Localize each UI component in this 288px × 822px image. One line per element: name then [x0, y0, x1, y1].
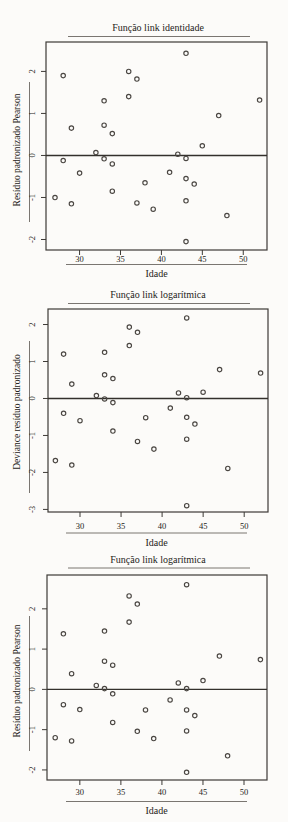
- data-point: [111, 720, 115, 724]
- data-point: [127, 343, 131, 347]
- data-point: [184, 729, 188, 733]
- data-point: [102, 123, 106, 127]
- data-point: [168, 406, 172, 410]
- data-point: [78, 707, 82, 711]
- x-tick-label: 35: [116, 254, 125, 264]
- scatter-plot-svg-3: Função link logarítmicaResíduo padroniza…: [0, 551, 288, 822]
- data-point: [61, 703, 65, 707]
- scatter-panel-log-pearson: Função link logarítmicaResíduo padroniza…: [0, 551, 288, 822]
- data-point: [135, 729, 139, 733]
- y-tick-label: -2: [28, 469, 38, 476]
- y-tick-label: 1: [28, 647, 38, 651]
- y-tick-label: -1: [28, 194, 38, 201]
- x-tick-label: 30: [76, 521, 85, 531]
- data-point: [168, 698, 172, 702]
- plot-border: [46, 42, 267, 250]
- data-point: [200, 144, 204, 148]
- data-point: [94, 393, 98, 397]
- data-point: [176, 681, 180, 685]
- data-point: [184, 51, 188, 55]
- chart-title: Função link identidade: [112, 22, 204, 33]
- data-point: [201, 390, 205, 394]
- x-tick-label: 50: [240, 787, 249, 797]
- data-point: [102, 659, 106, 663]
- data-point: [193, 713, 197, 717]
- scatter-plot-svg-1: Função link identidadeResíduo padronizad…: [0, 0, 288, 280]
- data-point: [193, 422, 197, 426]
- chart-title: Função link logarítmica: [110, 289, 206, 300]
- data-point: [135, 602, 139, 606]
- data-point: [102, 350, 106, 354]
- x-tick-label: 45: [198, 254, 207, 264]
- data-point: [258, 657, 262, 661]
- x-axis-label: Idade: [145, 537, 168, 548]
- data-point: [185, 396, 189, 400]
- y-tick-label: 2: [28, 607, 38, 611]
- data-point: [94, 150, 98, 154]
- scatter-plot-svg-2: Função link logarítmicaDeviance resíduo …: [0, 280, 288, 551]
- data-point: [110, 131, 114, 135]
- y-tick-label: -1: [28, 432, 38, 439]
- data-point: [61, 632, 65, 636]
- x-tick-label: 30: [75, 254, 84, 264]
- data-point: [225, 754, 229, 758]
- data-point: [53, 736, 57, 740]
- data-point: [225, 213, 229, 217]
- data-point: [152, 447, 156, 451]
- data-point: [111, 376, 115, 380]
- y-tick-label: 2: [28, 69, 38, 73]
- data-point: [61, 73, 65, 77]
- data-point: [53, 458, 57, 462]
- data-point: [102, 686, 106, 690]
- data-point: [69, 126, 73, 130]
- data-point: [127, 594, 131, 598]
- data-point: [127, 325, 131, 329]
- data-point: [127, 94, 131, 98]
- data-point: [257, 98, 261, 102]
- plot-border: [47, 575, 267, 780]
- data-point: [127, 620, 131, 624]
- data-point: [53, 195, 57, 199]
- x-axis-label: Idade: [145, 805, 168, 816]
- data-point: [69, 672, 73, 676]
- data-point: [135, 330, 139, 334]
- data-point: [217, 367, 221, 371]
- data-point: [185, 437, 189, 441]
- y-tick-label: -3: [28, 506, 38, 513]
- x-tick-label: 50: [239, 254, 248, 264]
- data-point: [201, 678, 205, 682]
- data-point: [94, 683, 98, 687]
- data-point: [61, 352, 65, 356]
- data-point: [110, 162, 114, 166]
- data-point: [185, 316, 189, 320]
- data-point: [185, 415, 189, 419]
- y-tick-label: 1: [28, 111, 38, 115]
- data-point: [110, 189, 114, 193]
- data-point: [184, 770, 188, 774]
- scatter-panel-identity-pearson: Função link identidadeResíduo padronizad…: [0, 0, 288, 280]
- data-point: [135, 77, 139, 81]
- plot-border: [48, 309, 268, 512]
- y-tick-label: 1: [28, 359, 38, 363]
- data-point: [111, 663, 115, 667]
- x-tick-label: 40: [158, 521, 167, 531]
- data-point: [184, 176, 188, 180]
- y-tick-label: 0: [28, 687, 38, 691]
- data-point: [70, 382, 74, 386]
- data-point: [184, 239, 188, 243]
- data-point: [176, 391, 180, 395]
- x-tick-label: 40: [158, 787, 167, 797]
- data-point: [70, 463, 74, 467]
- y-tick-label: -2: [28, 236, 38, 243]
- data-point: [217, 654, 221, 658]
- data-point: [226, 466, 230, 470]
- x-tick-label: 35: [117, 787, 126, 797]
- y-axis-label: Deviance resíduo padronizado: [12, 354, 22, 470]
- data-point: [184, 583, 188, 587]
- y-axis-label: Resíduo padronizado Pearson: [12, 624, 22, 737]
- data-point: [69, 202, 73, 206]
- data-point: [102, 157, 106, 161]
- x-axis-label: Idade: [145, 268, 168, 279]
- data-point: [61, 411, 65, 415]
- data-point: [184, 686, 188, 690]
